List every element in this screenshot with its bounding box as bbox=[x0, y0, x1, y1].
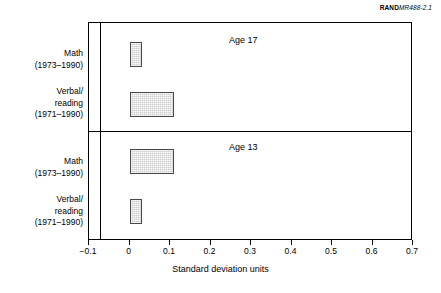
ylabel-age13-verbal-name: Verbal/ bbox=[0, 194, 83, 206]
source-credit: RANDMR488-2.1 bbox=[380, 5, 432, 12]
x-tick-label: −0.1 bbox=[80, 246, 97, 256]
ylabel-age17-math: Math (1973–1990) bbox=[0, 48, 83, 71]
ylabel-age17-math-years: (1973–1990) bbox=[0, 60, 83, 72]
x-tick-mark bbox=[169, 240, 170, 245]
x-tick-mark bbox=[331, 240, 332, 245]
rand-logo-text: RAND bbox=[380, 4, 399, 11]
x-tick-mark bbox=[291, 240, 292, 245]
ylabel-age17-math-name: Math bbox=[0, 48, 83, 60]
panel-divider bbox=[89, 131, 411, 132]
x-tick-label: 0.7 bbox=[406, 246, 418, 256]
x-tick-label: 0.2 bbox=[204, 246, 216, 256]
ylabel-age13-verbal-years: (1971–1990) bbox=[0, 217, 83, 229]
ylabel-age17-verbal-name: Verbal/ bbox=[0, 86, 83, 98]
x-tick-mark bbox=[412, 240, 413, 245]
zero-baseline-age17 bbox=[100, 23, 101, 131]
bar-age17-math bbox=[130, 42, 142, 67]
ylabel-age17-verbal-name2: reading bbox=[0, 98, 83, 110]
x-tick-mark bbox=[88, 240, 89, 245]
x-tick-label: 0.6 bbox=[366, 246, 378, 256]
ylabel-age17-verbal-years: (1971–1990) bbox=[0, 109, 83, 121]
plot-frame: Age 17 Age 13 bbox=[88, 22, 412, 240]
ylabel-age13-math: Math (1973–1990) bbox=[0, 156, 83, 179]
document-id: MR488-2.1 bbox=[399, 4, 432, 11]
x-tick-label: 0.1 bbox=[163, 246, 175, 256]
ylabel-age13-math-name: Math bbox=[0, 156, 83, 168]
panel-title-age17: Age 17 bbox=[229, 35, 258, 45]
ylabel-age13-math-years: (1973–1990) bbox=[0, 168, 83, 180]
x-tick-label: 0.5 bbox=[325, 246, 337, 256]
x-tick-mark bbox=[129, 240, 130, 245]
bar-age13-math bbox=[130, 149, 175, 174]
x-tick-label: 0 bbox=[126, 246, 131, 256]
ylabel-age13-verbal: Verbal/ reading (1971–1990) bbox=[0, 194, 83, 229]
x-tick-label: 0.3 bbox=[244, 246, 256, 256]
ylabel-age13-verbal-name2: reading bbox=[0, 206, 83, 218]
x-tick-label: 0.4 bbox=[285, 246, 297, 256]
bar-age17-verbal-reading bbox=[130, 92, 175, 117]
x-tick-mark bbox=[210, 240, 211, 245]
zero-baseline-age13 bbox=[100, 131, 101, 239]
x-axis-title: Standard deviation units bbox=[0, 264, 441, 274]
x-tick-mark bbox=[250, 240, 251, 245]
panel-title-age13: Age 13 bbox=[229, 142, 258, 152]
ylabel-age17-verbal: Verbal/ reading (1971–1990) bbox=[0, 86, 83, 121]
bar-age13-verbal-reading bbox=[130, 199, 142, 224]
x-tick-mark bbox=[372, 240, 373, 245]
